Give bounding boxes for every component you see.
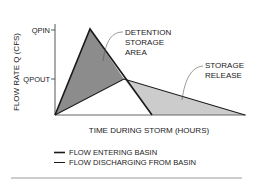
x-axis-label: TIME DURING STORM (HOURS) (89, 126, 210, 135)
annotation-detention-line2: STORAGE (125, 38, 164, 47)
detention-storage-area (55, 29, 124, 115)
annotation-release-line2: RELEASE (205, 71, 242, 80)
y-axis-label: FLOW RATE Q (CFS) (12, 33, 21, 111)
release-leader-line (182, 66, 203, 100)
detention-hydrograph-diagram: QPIN QPOUT FLOW RATE Q (CFS) TIME DURING… (0, 0, 255, 183)
tick-label-qpout: QPOUT (23, 75, 50, 84)
legend-label-outflow: FLOW DISCHARGING FROM BASIN (69, 158, 196, 167)
annotation-detention-line1: DETENTION (125, 28, 171, 37)
tick-label-qpin: QPIN (32, 26, 50, 35)
annotation-release-line1: STORAGE (205, 61, 244, 70)
legend-label-inflow: FLOW ENTERING BASIN (69, 148, 157, 157)
annotation-detention-line3: AREA (125, 48, 147, 57)
